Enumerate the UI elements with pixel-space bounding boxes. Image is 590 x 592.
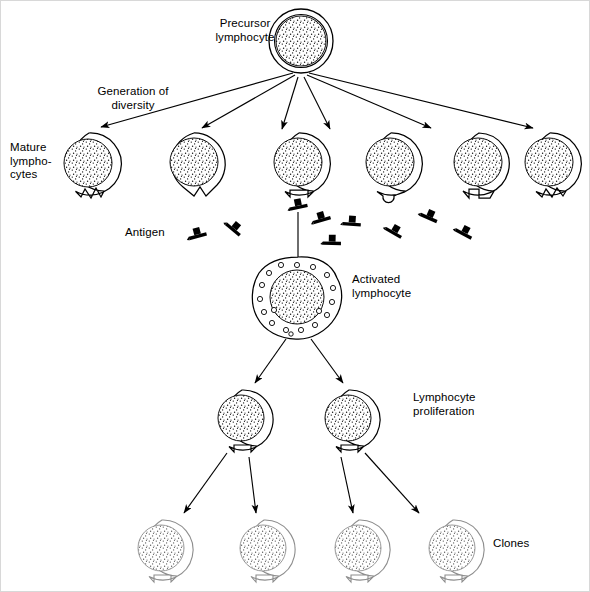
generation-of-diversity-label: Generation of diversity (81, 85, 185, 112)
activated-lymphocyte-label: Activated lymphocyte (352, 273, 448, 300)
precursor-lymphocyte-label: Precursor lymphocyte (199, 17, 291, 44)
mature-lymphocytes-label: Mature lympho- cytes (10, 141, 70, 182)
antigen-particle (223, 216, 245, 237)
antigen-particle-bound (286, 197, 308, 211)
lymphocyte-proliferation-label: Lymphocyte proliferation (413, 391, 513, 418)
mature-lymphocyte-5 (454, 133, 509, 198)
antigen-particles (184, 197, 475, 245)
clone-lymphocyte-4 (429, 520, 484, 582)
mature-lymphocyte-4 (366, 133, 422, 203)
antigen-particle (340, 215, 361, 227)
antigen-particle (184, 226, 207, 241)
mature-lymphocyte-2 (170, 133, 225, 196)
cloning-arrows (184, 453, 419, 513)
antigen-particle (382, 220, 405, 239)
proliferating-lymphocyte-1 (218, 390, 273, 452)
figure-canvas: Precursor lymphocyte Generation of diver… (0, 0, 590, 592)
mature-lymphocyte-1 (64, 133, 121, 198)
mature-lymphocyte-3-selected (274, 133, 330, 197)
antigen-particle (452, 221, 475, 240)
antigen-particle (417, 206, 440, 224)
proliferation-arrows (255, 339, 343, 383)
clone-lymphocyte-3 (335, 520, 390, 582)
proliferating-lymphocyte-2 (325, 390, 380, 452)
clone-lymphocyte-2 (240, 520, 295, 582)
clones-label: Clones (493, 537, 553, 551)
antigen-label: Antigen (125, 226, 185, 240)
clone-lymphocyte-1 (138, 520, 193, 582)
mature-lymphocyte-6 (525, 133, 581, 197)
activated-lymphocyte (252, 257, 341, 339)
antigen-particle (308, 210, 331, 225)
antigen-particle (320, 235, 341, 246)
